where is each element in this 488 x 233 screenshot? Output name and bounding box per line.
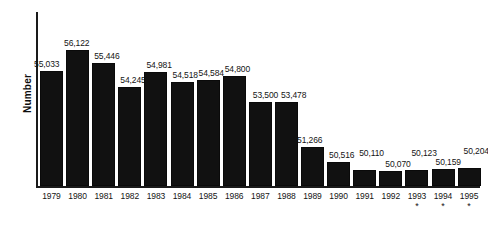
- bar-value-label-1984: 54,518: [173, 70, 198, 80]
- bar-1990: [327, 162, 350, 186]
- x-tick-footnote-1995: *: [454, 203, 485, 209]
- bar-1986: [223, 76, 246, 186]
- bar-value-label-1993: 50,123: [411, 148, 436, 158]
- bar-1992: [379, 171, 402, 186]
- bar-value-label-1989: 51,266: [297, 135, 322, 145]
- x-tick-label-1995: 1995: [454, 191, 485, 201]
- plot-area: 55,033197956,122198055,446198154,2451982…: [0, 0, 488, 233]
- bar-chart: Number 55,033197956,122198055,446198154,…: [0, 0, 488, 233]
- bar-value-label-1987: 53,500: [253, 90, 278, 100]
- bar-value-label-1982: 54,245: [120, 75, 145, 85]
- bar-value-label-1979: 55,033: [34, 59, 59, 69]
- bar-1988: [275, 102, 298, 186]
- bar-1985: [197, 80, 220, 186]
- bar-1983: [144, 72, 167, 186]
- bar-value-label-1990: 50,516: [329, 150, 354, 160]
- bar-value-label-1991: 50,110: [359, 148, 384, 158]
- bar-value-label-1980: 56,122: [64, 38, 89, 48]
- bar-1984: [171, 82, 194, 186]
- bar-1993: [405, 170, 428, 186]
- bar-1982: [118, 87, 141, 186]
- bar-1989: [301, 147, 324, 186]
- x-axis-line: [36, 186, 480, 188]
- bar-1994: [432, 169, 455, 186]
- bar-value-label-1985: 54,584: [199, 68, 224, 78]
- bar-value-label-1992: 50,070: [385, 159, 410, 169]
- bar-value-label-1995: 50,204: [464, 146, 488, 156]
- bar-1980: [66, 50, 89, 186]
- bar-value-label-1981: 55,446: [94, 51, 119, 61]
- bar-value-label-1986: 54,800: [225, 64, 250, 74]
- bar-value-label-1983: 54,981: [146, 60, 171, 70]
- bar-1981: [92, 63, 115, 186]
- bar-value-label-1988: 53,478: [281, 90, 306, 100]
- bar-1987: [249, 102, 272, 186]
- bar-1991: [353, 170, 376, 186]
- bar-1979: [40, 71, 63, 186]
- bar-value-label-1994: 50,159: [436, 157, 461, 167]
- bar-1995: [458, 168, 481, 186]
